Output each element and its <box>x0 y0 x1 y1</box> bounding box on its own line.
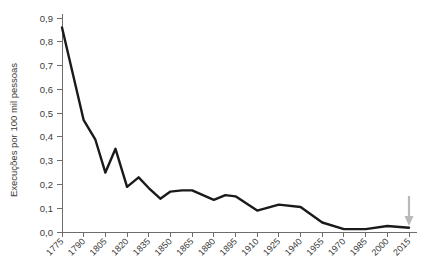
y-tick-label: 0,7 <box>40 60 53 71</box>
x-tick-label-group: 1775179018051820183518501865188018951910… <box>44 236 412 257</box>
x-tick-label: 1775 <box>44 236 65 257</box>
y-tick-label: 0,0 <box>40 227 53 238</box>
chart-canvas: Execuções por 100 mil pessoas 0,00,10,20… <box>0 0 429 274</box>
y-tick-label: 0,1 <box>40 203 53 214</box>
x-tick-label: 1850 <box>153 236 174 257</box>
x-tick-label: 1925 <box>261 236 282 257</box>
x-tick-label: 1895 <box>218 236 239 257</box>
execution-rate-line-chart: Execuções por 100 mil pessoas 0,00,10,20… <box>0 0 429 274</box>
y-tick-label: 0,5 <box>40 108 53 119</box>
y-tick-label-group: 0,00,10,20,30,40,50,60,70,80,9 <box>40 13 53 238</box>
x-tick-label: 1820 <box>109 236 130 257</box>
x-tick-label: 1805 <box>88 236 109 257</box>
execution-rate-series-line <box>62 28 409 230</box>
arrow-head <box>405 216 414 226</box>
annotation-group <box>405 196 414 226</box>
tick-mark-group <box>57 18 409 237</box>
y-tick-label: 0,9 <box>40 13 53 24</box>
y-tick-label: 0,8 <box>40 36 53 47</box>
x-tick-label: 2015 <box>391 236 412 257</box>
x-tick-label: 1880 <box>196 236 217 257</box>
x-tick-label: 2000 <box>369 236 390 257</box>
y-tick-label: 0,6 <box>40 84 53 95</box>
y-axis-title-label: Execuções por 100 mil pessoas <box>8 63 19 197</box>
x-tick-label: 1865 <box>174 236 195 257</box>
y-tick-label: 0,4 <box>40 131 53 142</box>
y-axis-title: Execuções por 100 mil pessoas <box>8 63 19 197</box>
x-tick-label: 1955 <box>304 236 325 257</box>
x-tick-label: 1940 <box>283 236 304 257</box>
y-tick-label: 0,3 <box>40 155 53 166</box>
x-tick-label: 1790 <box>66 236 87 257</box>
x-tick-label: 1910 <box>239 236 260 257</box>
x-tick-label: 1985 <box>348 236 369 257</box>
x-tick-label: 1835 <box>131 236 152 257</box>
y-tick-label: 0,2 <box>40 179 53 190</box>
x-tick-label: 1970 <box>326 236 347 257</box>
annotation-arrow-icon <box>405 196 414 226</box>
